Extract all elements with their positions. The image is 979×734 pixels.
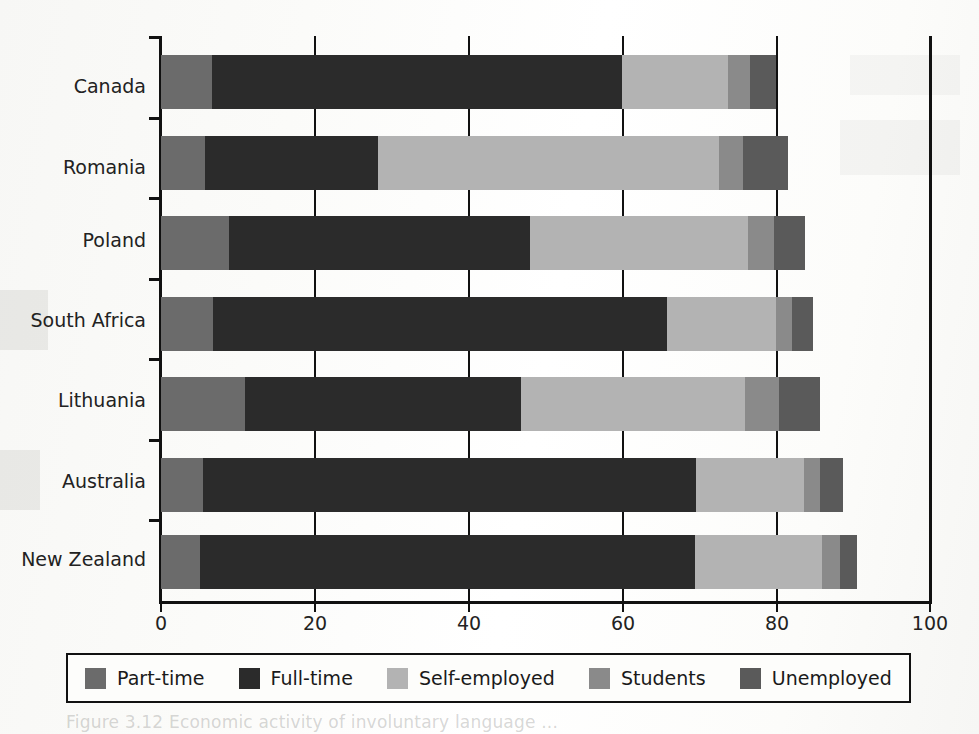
xtick-label-20: 20: [303, 612, 327, 634]
legend-item-self-employed[interactable]: Self-employed: [387, 667, 555, 689]
xtick-mark-60: [622, 603, 624, 612]
xtick-mark-100: [929, 603, 931, 612]
segment-australia-unemployed[interactable]: [820, 458, 843, 512]
segment-south-africa-students[interactable]: [776, 297, 791, 351]
legend-swatch-self-employed: [387, 668, 408, 689]
segment-new-zealand-part-time[interactable]: [161, 535, 200, 589]
ytick-label-lithuania: Lithuania: [0, 389, 146, 411]
segment-australia-students[interactable]: [804, 458, 820, 512]
legend-label-unemployed: Unemployed: [772, 667, 892, 689]
xtick-mark-80: [776, 603, 778, 612]
segment-poland-full-time[interactable]: [229, 216, 530, 270]
segment-new-zealand-self-employed[interactable]: [695, 535, 823, 589]
legend-item-full-time[interactable]: Full-time: [239, 667, 353, 689]
xtick-mark-0: [160, 603, 162, 612]
bar-lithuania: [161, 377, 820, 431]
ytick-label-south-africa: South Africa: [0, 309, 146, 331]
legend-item-students[interactable]: Students: [589, 667, 706, 689]
ytick-label-australia: Australia: [0, 470, 146, 492]
segment-south-africa-part-time[interactable]: [161, 297, 213, 351]
xtick-label-100: 100: [912, 612, 948, 634]
segment-south-africa-full-time[interactable]: [213, 297, 667, 351]
legend-swatch-students: [589, 668, 610, 689]
segment-lithuania-unemployed[interactable]: [779, 377, 820, 431]
segment-lithuania-students[interactable]: [745, 377, 779, 431]
segment-poland-part-time[interactable]: [161, 216, 229, 270]
ytick-label-canada: Canada: [0, 75, 146, 97]
legend-label-students: Students: [621, 667, 706, 689]
scan-artifact: [840, 120, 960, 175]
chart-legend: Part-time Full-time Self-employed Studen…: [66, 653, 911, 703]
ytick-mark-4: [149, 358, 160, 361]
segment-romania-full-time[interactable]: [205, 136, 378, 190]
ytick-mark-1: [149, 117, 160, 120]
legend-label-part-time: Part-time: [117, 667, 204, 689]
segment-romania-unemployed[interactable]: [743, 136, 788, 190]
segment-romania-part-time[interactable]: [161, 136, 205, 190]
segment-romania-students[interactable]: [719, 136, 744, 190]
bar-romania: [161, 136, 788, 190]
ytick-mark-0: [149, 36, 160, 39]
xtick-mark-40: [468, 603, 470, 612]
ytick-label-poland: Poland: [0, 229, 146, 251]
xtick-label-80: 80: [765, 612, 789, 634]
bar-canada: [161, 55, 776, 109]
legend-item-part-time[interactable]: Part-time: [85, 667, 204, 689]
xtick-mark-20: [314, 603, 316, 612]
segment-new-zealand-students[interactable]: [822, 535, 840, 589]
ytick-mark-6: [149, 519, 160, 522]
legend-swatch-full-time: [239, 668, 260, 689]
x-axis-line: [159, 601, 932, 604]
segment-canada-self-employed[interactable]: [622, 55, 727, 109]
segment-australia-self-employed[interactable]: [696, 458, 804, 512]
segment-lithuania-self-employed[interactable]: [521, 377, 746, 431]
xtick-label-40: 40: [457, 612, 481, 634]
segment-romania-self-employed[interactable]: [378, 136, 719, 190]
bar-south-africa: [161, 297, 813, 351]
segment-canada-unemployed[interactable]: [750, 55, 776, 109]
legend-label-full-time: Full-time: [271, 667, 353, 689]
segment-lithuania-part-time[interactable]: [161, 377, 245, 431]
segment-canada-part-time[interactable]: [161, 55, 212, 109]
right-axis-line: [929, 36, 932, 602]
ytick-label-romania: Romania: [0, 156, 146, 178]
bar-poland: [161, 216, 805, 270]
bar-australia: [161, 458, 843, 512]
bar-new-zealand: [161, 535, 857, 589]
segment-canada-full-time[interactable]: [212, 55, 623, 109]
ytick-mark-3: [149, 278, 160, 281]
segment-australia-full-time[interactable]: [203, 458, 696, 512]
legend-swatch-unemployed: [740, 668, 761, 689]
legend-label-self-employed: Self-employed: [419, 667, 555, 689]
segment-poland-self-employed[interactable]: [530, 216, 748, 270]
stacked-bar-chart: 0 20 40 60 80 100 Canada Romania Poland …: [0, 0, 979, 734]
ytick-mark-5: [149, 439, 160, 442]
legend-swatch-part-time: [85, 668, 106, 689]
figure-caption: Figure 3.12 Economic activity of involun…: [66, 712, 558, 732]
xtick-label-60: 60: [611, 612, 635, 634]
segment-canada-students[interactable]: [728, 55, 750, 109]
segment-poland-students[interactable]: [748, 216, 774, 270]
ytick-label-new-zealand: New Zealand: [0, 548, 146, 570]
segment-poland-unemployed[interactable]: [774, 216, 805, 270]
segment-new-zealand-unemployed[interactable]: [840, 535, 857, 589]
segment-south-africa-self-employed[interactable]: [667, 297, 776, 351]
segment-south-africa-unemployed[interactable]: [792, 297, 814, 351]
scan-artifact: [850, 55, 960, 95]
ytick-mark-2: [149, 197, 160, 200]
xtick-label-0: 0: [155, 612, 167, 634]
legend-item-unemployed[interactable]: Unemployed: [740, 667, 892, 689]
segment-australia-part-time[interactable]: [161, 458, 203, 512]
segment-new-zealand-full-time[interactable]: [200, 535, 694, 589]
segment-lithuania-full-time[interactable]: [245, 377, 521, 431]
